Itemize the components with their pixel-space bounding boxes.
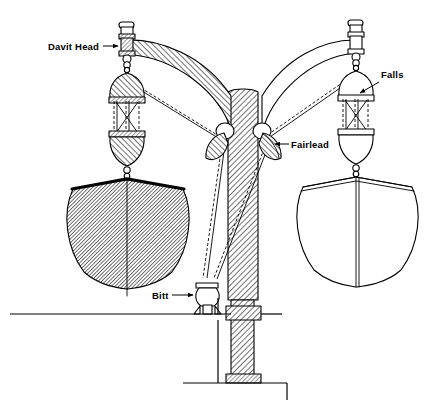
davit-head-right [348, 20, 364, 71]
davit-illustration: Davit Head Falls Fairlead Bitt [0, 0, 434, 418]
deck-bitt [194, 283, 221, 314]
right-upper-block [338, 71, 374, 101]
callout-fairlead: Fairlead [275, 139, 329, 150]
right-lower-block [338, 129, 374, 177]
callout-davit-head: Davit Head [48, 41, 118, 52]
outline-lifeboat-stowed [297, 177, 418, 287]
davit-head-left [119, 22, 135, 73]
left-lower-block [109, 131, 145, 179]
shaded-lifeboat-lowering [67, 179, 189, 296]
mast-base-plate [226, 374, 261, 383]
right-falls-between-blocks [343, 99, 368, 132]
left-falls-between-blocks [114, 101, 139, 134]
callout-bitt: Bitt [152, 290, 193, 301]
left-upper-block [109, 73, 145, 103]
callout-label-bitt: Bitt [152, 290, 169, 301]
mast-collar [226, 306, 261, 320]
davit-diagram: Davit Head Falls Fairlead Bitt [0, 0, 434, 418]
callout-label-fairlead: Fairlead [291, 139, 329, 150]
callout-label-davit-head: Davit Head [48, 41, 99, 52]
callout-label-falls: Falls [381, 69, 404, 80]
